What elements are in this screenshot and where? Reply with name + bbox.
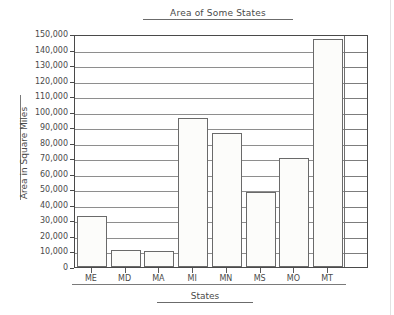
right-tick-mark xyxy=(345,98,367,99)
x-category-label-md: MD xyxy=(106,274,144,285)
x-tick-mark xyxy=(260,268,261,273)
right-tick-mark xyxy=(345,160,367,161)
x-axis-title: States xyxy=(157,291,253,303)
chart-title: Area of Some States xyxy=(143,8,293,20)
y-tick-label: 120,000 xyxy=(22,77,68,86)
right-tick-mark xyxy=(345,207,367,208)
x-category-label-mn: MN xyxy=(207,274,245,285)
x-tick-mark xyxy=(125,268,126,273)
plot-area xyxy=(74,35,368,268)
right-tick-mark xyxy=(345,253,367,254)
y-tick-label: 30,000 xyxy=(22,216,68,225)
y-tick-mark xyxy=(70,35,74,36)
y-tick-mark xyxy=(70,190,74,191)
right-tick-mark xyxy=(345,52,367,53)
bar-me xyxy=(77,216,107,267)
y-tick-mark xyxy=(70,66,74,67)
y-tick-label: 80,000 xyxy=(22,139,68,148)
x-tick-mark xyxy=(158,268,159,273)
bar-mn xyxy=(212,133,242,267)
y-tick-mark xyxy=(70,128,74,129)
y-tick-mark xyxy=(70,113,74,114)
y-tick-mark xyxy=(70,97,74,98)
right-tick-mark xyxy=(345,238,367,239)
y-tick-label: 70,000 xyxy=(22,154,68,163)
right-tick-mark xyxy=(345,222,367,223)
bar-mt xyxy=(313,39,343,267)
y-tick-mark xyxy=(70,221,74,222)
bar-ms xyxy=(246,192,276,267)
x-category-label-me: ME xyxy=(72,274,110,285)
y-tick-mark xyxy=(70,237,74,238)
x-tick-mark xyxy=(327,268,328,273)
x-category-label-ms: MS xyxy=(241,274,279,285)
y-tick-label: 60,000 xyxy=(22,170,68,179)
y-tick-label: 50,000 xyxy=(22,185,68,194)
y-tick-label: 100,000 xyxy=(22,108,68,117)
right-tick-mark xyxy=(345,83,367,84)
y-tick-mark xyxy=(70,82,74,83)
y-tick-label: 140,000 xyxy=(22,46,68,55)
x-category-label-mi: MI xyxy=(173,274,211,285)
y-tick-mark xyxy=(70,206,74,207)
right-tick-mark xyxy=(345,176,367,177)
y-tick-label: 0 xyxy=(22,263,68,272)
y-tick-mark xyxy=(70,175,74,176)
right-tick-mark xyxy=(345,145,367,146)
bar-chart-figure: Area of Some States Area in Square Miles… xyxy=(0,0,394,315)
y-tick-label: 10,000 xyxy=(22,247,68,256)
bar-mi xyxy=(178,118,208,267)
right-tick-mark xyxy=(345,191,367,192)
y-tick-label: 130,000 xyxy=(22,61,68,70)
y-tick-label: 150,000 xyxy=(22,30,68,39)
y-tick-mark xyxy=(70,252,74,253)
x-tick-mark xyxy=(226,268,227,273)
right-tick-mark xyxy=(345,67,367,68)
bar-mo xyxy=(279,158,309,267)
x-category-label-mo: MO xyxy=(274,274,312,285)
y-tick-mark xyxy=(70,159,74,160)
x-tick-mark xyxy=(192,268,193,273)
y-tick-mark xyxy=(70,51,74,52)
y-tick-label: 110,000 xyxy=(22,92,68,101)
bar-md xyxy=(111,250,141,267)
x-tick-mark xyxy=(91,268,92,273)
y-tick-mark xyxy=(70,144,74,145)
right-tick-rail xyxy=(344,36,345,267)
bar-ma xyxy=(144,251,174,267)
x-category-label-mt: MT xyxy=(308,274,346,285)
x-category-label-ma: MA xyxy=(139,274,177,285)
x-tick-mark xyxy=(293,268,294,273)
y-tick-label: 40,000 xyxy=(22,201,68,210)
y-tick-label: 20,000 xyxy=(22,232,68,241)
right-tick-mark xyxy=(345,114,367,115)
y-tick-label: 90,000 xyxy=(22,123,68,132)
right-tick-mark xyxy=(345,129,367,130)
y-tick-mark xyxy=(70,268,74,269)
